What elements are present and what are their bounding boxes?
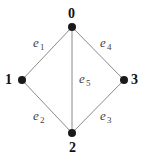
edge-label-e3-base: e bbox=[100, 108, 106, 123]
node-label-1: 1 bbox=[5, 72, 12, 87]
edge-label-e1-sub: 1 bbox=[40, 42, 45, 52]
node-label-2: 2 bbox=[69, 140, 76, 155]
edge-label-e1-base: e bbox=[33, 35, 39, 50]
edge-label-e4-base: e bbox=[100, 35, 106, 50]
edge-label-e3-sub: 3 bbox=[107, 115, 112, 125]
edge-label-e4-sub: 4 bbox=[107, 42, 112, 52]
edge-label-e2: e 2 bbox=[33, 108, 45, 125]
node-label-0: 0 bbox=[68, 6, 75, 21]
node-1 bbox=[18, 76, 26, 84]
node-2 bbox=[68, 129, 76, 137]
edge-label-e4: e 4 bbox=[100, 35, 112, 52]
edge-e3 bbox=[72, 80, 124, 133]
edge-e1 bbox=[22, 27, 72, 80]
graph-diagram: 0 1 2 3 e 1 e 2 e 3 e 4 e 5 bbox=[0, 0, 144, 158]
node-label-3: 3 bbox=[131, 72, 138, 87]
node-0 bbox=[68, 23, 76, 31]
edge-label-e2-base: e bbox=[33, 108, 39, 123]
edge-label-e3: e 3 bbox=[100, 108, 112, 125]
edge-label-e2-sub: 2 bbox=[40, 115, 45, 125]
edge-label-e5-base: e bbox=[79, 71, 85, 86]
edge-label-e1: e 1 bbox=[33, 35, 45, 52]
edge-label-e5-sub: 5 bbox=[86, 78, 91, 88]
edge-e2 bbox=[22, 80, 72, 133]
edge-label-e5: e 5 bbox=[79, 71, 91, 88]
node-3 bbox=[120, 76, 128, 84]
